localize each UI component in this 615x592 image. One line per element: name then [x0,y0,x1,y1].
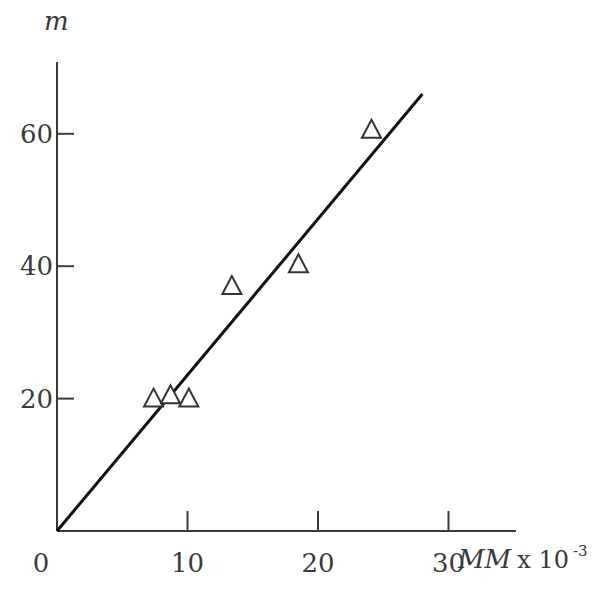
y-tick-label: 20 [20,384,53,414]
data-points [144,120,381,407]
y-tick-label: 40 [20,251,53,281]
triangle-marker [179,389,198,407]
axes [57,62,516,531]
x-axis-title-exponent: -3 [573,542,588,560]
x-tick-label: 20 [301,548,334,578]
triangle-marker [289,254,308,272]
x-tick-label: 10 [171,548,204,578]
x-ticks: 0102030 [33,511,465,578]
x-axis-title: MM x 10 -3 [457,542,588,574]
fit-line [57,94,422,531]
scatter-chart: 0102030 204060 m MM x 10 -3 [0,0,615,592]
x-axis-title-main: MM [457,544,513,574]
y-axis-title: m [44,6,69,36]
x-axis-title-suffix: x 10 [517,546,569,574]
triangle-marker [222,276,241,294]
y-ticks: 204060 [20,119,74,414]
y-tick-label: 60 [20,119,53,149]
x-tick-label: 0 [33,548,50,578]
triangle-marker [362,120,381,138]
